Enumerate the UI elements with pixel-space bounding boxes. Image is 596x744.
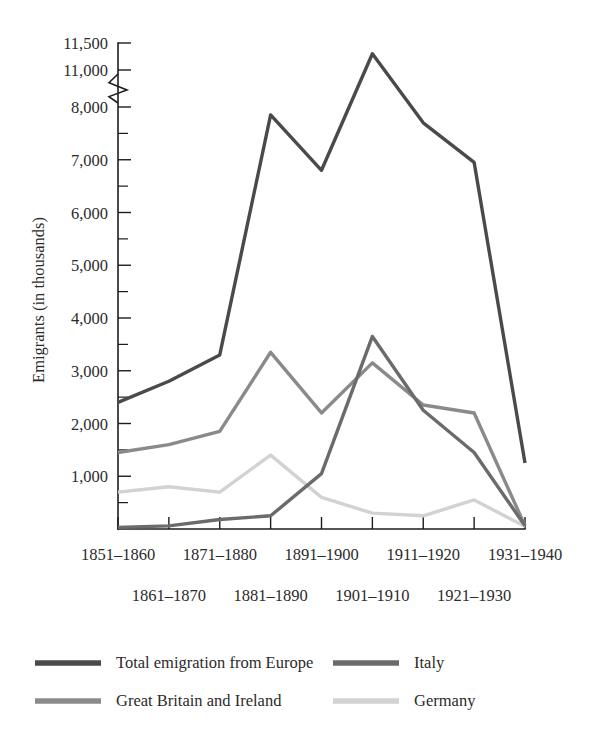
chart-svg: Emigrants (in thousands) 1,0002,0003,000…: [0, 0, 596, 744]
x-tick-label: 1901–1910: [335, 586, 409, 605]
y-axis-tick-labels: 1,0002,0003,0004,0005,0006,0007,0008,000…: [63, 34, 108, 486]
y-tick-label: 3,000: [71, 362, 108, 381]
x-tick-label: 1891–1900: [284, 545, 358, 564]
y-tick-label: 1,000: [71, 467, 108, 486]
y-tick-label: 8,000: [71, 98, 108, 117]
y-tick-label: 7,000: [71, 151, 108, 170]
series-line-germany: [118, 455, 525, 526]
x-tick-label: 1871–1880: [183, 545, 257, 564]
x-tick-label: 1861–1870: [132, 586, 206, 605]
axis-lines: [118, 43, 525, 529]
x-tick-label: 1851–1860: [81, 545, 155, 564]
legend-label: Great Britain and Ireland: [116, 691, 282, 710]
y-axis-tick-marks: [118, 43, 131, 503]
x-tick-label: 1911–1920: [386, 545, 460, 564]
y-tick-label: 5,000: [71, 256, 108, 275]
legend-label: Germany: [414, 691, 476, 710]
x-tick-label: 1931–1940: [488, 545, 562, 564]
data-series-group: [118, 54, 525, 528]
emigration-line-chart: Emigrants (in thousands) 1,0002,0003,000…: [0, 0, 596, 744]
series-line-great-britain-and-ireland: [118, 352, 525, 526]
y-tick-label: 2,000: [71, 415, 108, 434]
series-line-total-emigration-from-europe: [118, 54, 525, 463]
y-axis-title: Emigrants (in thousands): [29, 217, 48, 383]
chart-legend: Total emigration from EuropeItalyGreat B…: [35, 653, 476, 710]
x-axis-tick-labels: 1851–18601861–18701871–18801881–18901891…: [81, 545, 562, 605]
legend-label: Total emigration from Europe: [116, 653, 313, 672]
y-tick-label: 4,000: [71, 309, 108, 328]
legend-label: Italy: [414, 653, 445, 672]
x-tick-label: 1881–1890: [234, 586, 308, 605]
y-tick-label: 11,500: [63, 34, 108, 53]
y-tick-label: 6,000: [71, 204, 108, 223]
y-tick-label: 11,000: [63, 61, 108, 80]
x-tick-label: 1921–1930: [437, 586, 511, 605]
y-axis-title-label: Emigrants (in thousands): [29, 217, 48, 383]
